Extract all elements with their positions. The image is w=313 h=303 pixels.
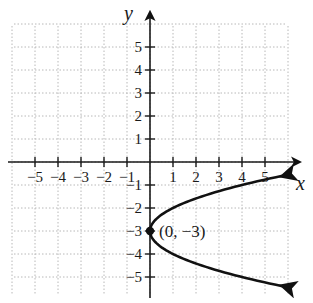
x-axis-label: x: [295, 172, 305, 194]
x-tick-label: −2: [96, 169, 112, 185]
y-tick-label: 1: [135, 131, 143, 147]
axes: [8, 12, 300, 298]
curve-upper-arrow-icon: [282, 175, 288, 177]
x-tick-label: 3: [215, 169, 223, 185]
x-tick-label: 4: [238, 169, 246, 185]
y-axis-label: y: [122, 2, 133, 25]
x-tick-label: −4: [50, 169, 66, 185]
vertex-label: (0, −3): [159, 222, 205, 241]
y-tick-label: −1: [126, 177, 142, 193]
y-tick-label: 5: [135, 39, 143, 55]
coordinate-plane: −5−4−3−2−112345−5−4−3−2−112345 (0, −3) x…: [0, 0, 313, 303]
y-tick-label: 2: [135, 108, 143, 124]
y-tick-label: 4: [135, 62, 143, 78]
y-tick-label: −3: [126, 223, 142, 239]
x-tick-label: 1: [169, 169, 177, 185]
x-tick-label: −3: [73, 169, 89, 185]
vertex-point: [146, 227, 154, 235]
y-tick-label: 3: [135, 85, 143, 101]
x-tick-label: −5: [27, 169, 43, 185]
y-tick-label: −4: [126, 246, 142, 262]
curve-lower-arrow-icon: [282, 286, 288, 288]
y-tick-label: −5: [126, 269, 142, 285]
x-tick-label: 2: [192, 169, 200, 185]
y-tick-label: −2: [126, 200, 142, 216]
x-tick-label: 5: [261, 169, 269, 185]
